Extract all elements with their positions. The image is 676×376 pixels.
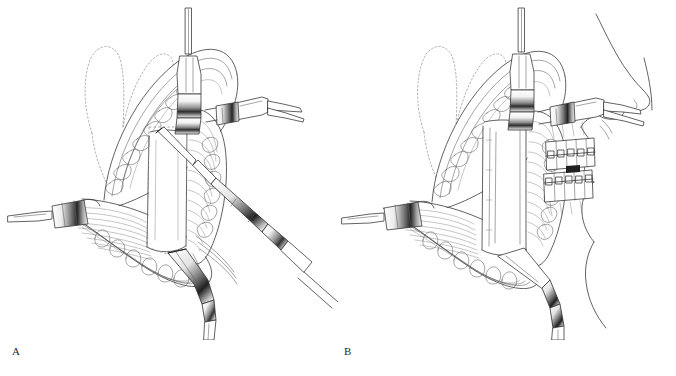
panel-b	[338, 0, 676, 340]
retractor-inferior-b[interactable]	[498, 248, 564, 340]
panel-label-a: A	[12, 345, 20, 357]
retractor-superior-b[interactable]	[508, 8, 534, 130]
figure-container: A B	[0, 0, 676, 376]
panel-a	[0, 0, 338, 340]
lower-dental-arch-b	[544, 170, 593, 202]
retractor-superior-a[interactable]	[175, 8, 201, 134]
upper-dental-arch-b	[546, 138, 595, 170]
osteotomy-segment-b	[482, 120, 526, 255]
panel-label-b: B	[344, 345, 352, 357]
